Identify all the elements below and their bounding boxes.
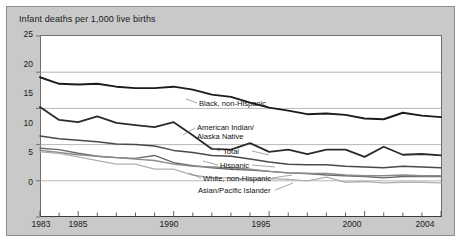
series-label-amerindian-line2: Alaska Native [197,133,243,142]
x-tick-1983: 1983 [21,219,61,229]
y-tick-15: 15 [11,88,33,98]
x-tick-1990: 1990 [149,219,189,229]
series-label-hispanic: Hispanic [220,162,249,171]
x-tick-1985: 1985 [58,219,98,229]
x-tick-2004: 2004 [405,219,445,229]
chart-figure: Infant deaths per 1,000 live births 25 2… [6,6,455,236]
y-tick-10: 10 [11,118,33,128]
series-label-white: White, non-Hispanic [203,175,271,184]
chart-title: Infant deaths per 1,000 live births [19,14,156,24]
series-label-black: Black, non-Hispanic [199,100,266,109]
series-label-asian: Asian/Pacific Islander [198,187,271,196]
y-tick-0: 0 [11,177,33,187]
y-tick-20: 20 [11,59,33,69]
y-tick-25: 25 [11,29,33,39]
series-label-total: Total [223,148,239,157]
x-tick-2000: 2000 [332,219,372,229]
x-tick-1995: 1995 [241,219,281,229]
y-tick-5: 5 [11,147,33,157]
